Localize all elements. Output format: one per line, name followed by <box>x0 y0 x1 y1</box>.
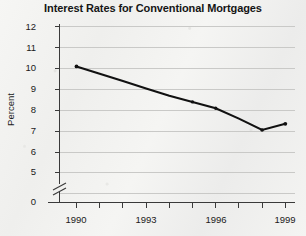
data-line-series-1 <box>77 66 286 130</box>
data-point-1990 <box>75 65 79 69</box>
grid-lines <box>60 27 295 194</box>
data-point-1998 <box>260 128 264 132</box>
x-axis-ticks <box>77 203 286 208</box>
chart-figure: Interest Rates for Conventional Mortgage… <box>0 0 306 236</box>
data-point-1999 <box>283 122 287 126</box>
data-point-1996 <box>214 107 217 110</box>
plot-area <box>0 0 306 236</box>
data-point-1995 <box>191 100 194 103</box>
